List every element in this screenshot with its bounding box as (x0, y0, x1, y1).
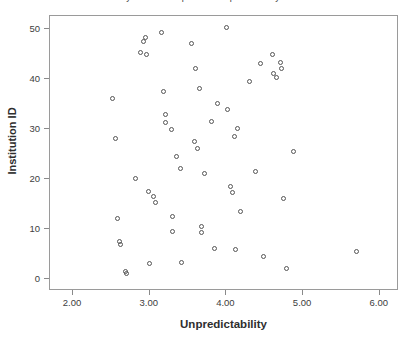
chart-title-clipped: Research Library Youth Perceptions of Un… (0, 0, 412, 4)
data-point (146, 189, 151, 194)
data-point (202, 171, 207, 176)
x-axis: 2.003.004.005.006.00 (49, 290, 398, 320)
data-point (199, 224, 204, 229)
y-axis-tick-label: 10 (29, 222, 40, 233)
data-point (118, 242, 123, 247)
data-point (224, 25, 229, 30)
data-point (110, 96, 115, 101)
data-point (199, 230, 204, 235)
data-point (153, 200, 158, 205)
y-axis-label: Institution ID (6, 71, 18, 211)
data-point (195, 146, 200, 151)
data-point (174, 154, 179, 159)
y-axis-tick-label: 40 (29, 72, 40, 83)
data-point (209, 119, 214, 124)
data-point (235, 126, 240, 131)
data-point (159, 30, 164, 35)
data-point (274, 75, 279, 80)
x-axis-tick-label: 3.00 (139, 297, 158, 308)
data-point (163, 120, 168, 125)
data-point (169, 127, 174, 132)
data-point (279, 66, 284, 71)
data-point (170, 214, 175, 219)
data-point (233, 247, 238, 252)
data-point (138, 50, 143, 55)
x-axis-tick (379, 290, 380, 295)
data-point (197, 86, 202, 91)
x-axis-tick-label: 6.00 (370, 297, 389, 308)
data-point (225, 107, 230, 112)
data-point (143, 35, 148, 40)
data-point (232, 134, 237, 139)
chart-title-text: Research Library Youth Perceptions of Un… (0, 0, 412, 3)
data-point (147, 261, 152, 266)
x-axis-tick-label: 5.00 (293, 297, 312, 308)
y-axis-tick-label: 20 (29, 172, 40, 183)
data-point (133, 176, 138, 181)
data-point (192, 139, 197, 144)
data-point (163, 112, 168, 117)
data-point (193, 66, 198, 71)
data-point (253, 169, 258, 174)
x-axis-tick (149, 290, 150, 295)
data-point (144, 52, 149, 57)
data-point (354, 249, 359, 254)
x-axis-tick (225, 290, 226, 295)
data-point (281, 196, 286, 201)
data-point (238, 209, 243, 214)
data-point (291, 149, 296, 154)
data-point (212, 246, 217, 251)
data-point (230, 190, 235, 195)
data-point (161, 89, 166, 94)
data-point (228, 184, 233, 189)
x-axis-tick (302, 290, 303, 295)
data-point (151, 194, 156, 199)
y-axis-tick-label: 30 (29, 122, 40, 133)
y-axis-tick-label: 0 (35, 272, 40, 283)
data-point (215, 101, 220, 106)
x-axis-label: Unpredictability (49, 318, 398, 330)
data-point (115, 216, 120, 221)
y-axis-tick-label: 50 (29, 22, 40, 33)
data-point (189, 41, 194, 46)
scatter-plot-figure: Research Library Youth Perceptions of Un… (0, 0, 412, 343)
x-axis-tick-label: 2.00 (63, 297, 82, 308)
x-axis-tick-label: 4.00 (216, 297, 235, 308)
data-point (258, 61, 263, 66)
data-point (261, 254, 266, 259)
plot-area (49, 15, 398, 290)
data-point (123, 269, 128, 274)
data-point (284, 266, 289, 271)
data-point (170, 229, 175, 234)
data-point (247, 79, 252, 84)
y-axis: 01020304050 Institution ID (0, 15, 49, 290)
x-axis-tick (72, 290, 73, 295)
data-point (278, 60, 283, 65)
data-point (270, 52, 275, 57)
data-point (113, 136, 118, 141)
data-point (179, 260, 184, 265)
data-points-layer (50, 16, 397, 289)
data-point (178, 166, 183, 171)
